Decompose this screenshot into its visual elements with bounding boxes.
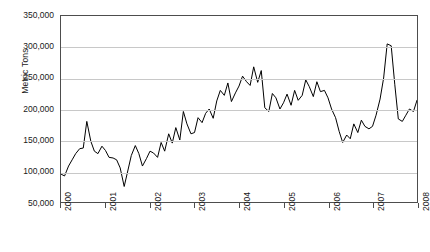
gridline	[61, 141, 417, 142]
y-axis-tick-labels: 50,000100,000150,000200,000250,000300,00…	[6, 0, 54, 252]
x-tick	[60, 203, 61, 208]
series-polyline	[61, 44, 417, 187]
x-tick-label: 2005	[288, 192, 297, 211]
y-tick-label: 50,000	[6, 199, 54, 208]
gridline	[61, 47, 417, 48]
x-tick	[329, 203, 330, 208]
series-line-chart	[61, 16, 417, 202]
x-tick	[284, 203, 285, 208]
x-tick	[105, 203, 106, 208]
x-tick	[373, 203, 374, 208]
chart-container: Metric Tons 50,000100,000150,000200,0002…	[0, 0, 430, 252]
gridline	[61, 79, 417, 80]
y-tick-label: 300,000	[6, 42, 54, 51]
x-tick-label: 2008	[422, 192, 430, 211]
gridline	[61, 173, 417, 174]
x-tick	[150, 203, 151, 208]
y-tick-label: 150,000	[6, 136, 54, 145]
x-tick-label: 2000	[64, 192, 73, 211]
x-tick-label: 2006	[333, 192, 342, 211]
x-tick	[194, 203, 195, 208]
x-tick	[239, 203, 240, 208]
x-tick-label: 2003	[198, 192, 207, 211]
plot-area	[60, 15, 418, 203]
x-tick-label: 2004	[243, 192, 252, 211]
y-tick-label: 200,000	[6, 105, 54, 114]
x-tick-label: 2001	[109, 192, 118, 211]
x-tick-label: 2002	[154, 192, 163, 211]
x-tick	[418, 203, 419, 208]
y-tick-label: 100,000	[6, 167, 54, 176]
gridline	[61, 110, 417, 111]
y-tick-label: 250,000	[6, 73, 54, 82]
y-tick-label: 350,000	[6, 11, 54, 20]
x-tick-label: 2007	[377, 192, 386, 211]
